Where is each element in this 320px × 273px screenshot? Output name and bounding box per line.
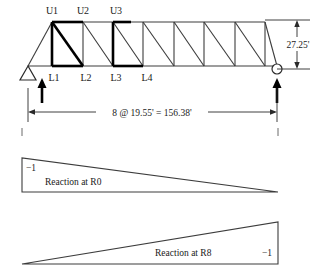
truss-diagonal-u6-l7 [204, 22, 235, 66]
node-label-l4: L4 [141, 72, 152, 83]
truss-end-diagonal-right [265, 22, 277, 66]
influence-line-r0: −1 Reaction at R0 [22, 128, 278, 192]
span-dimension-label: 8 @ 19.55' = 156.38' [112, 108, 192, 118]
influence-unit-label-r0: −1 [26, 163, 36, 173]
influence-unit-label-r8: −1 [262, 248, 272, 258]
truss-influence-line-figure: 27.25' 8 @ 19.55' = 156.38' U1 U2 U3 L1 … [0, 0, 320, 273]
figure-page: 27.25' 8 @ 19.55' = 156.38' U1 U2 U3 L1 … [0, 0, 320, 273]
influence-line-r8: Reaction at R8 −1 [22, 222, 278, 264]
node-label-u2: U2 [77, 5, 89, 16]
truss-diagram: 27.25' 8 @ 19.55' = 156.38' U1 U2 U3 L1 … [20, 5, 313, 122]
height-dimension-label: 27.25' [286, 40, 309, 50]
pin-support-icon [20, 66, 36, 80]
truss-diagonal-u7-l8 [235, 22, 265, 66]
node-label-l3: L3 [110, 72, 121, 83]
truss-end-diagonal-left [28, 22, 52, 66]
node-label-u3: U3 [110, 5, 122, 16]
node-label-u1: U1 [46, 5, 58, 16]
node-label-l2: L2 [80, 72, 91, 83]
truss-diagonal-u5-l6 [174, 22, 204, 66]
influence-line-shape-r8 [22, 222, 278, 264]
bold-member-u1-l2 [52, 22, 83, 66]
truss-diagonal-u2-l3 [83, 22, 113, 66]
influence-title-r0: Reaction at R0 [45, 177, 102, 187]
truss-diagonal-u3-l4 [113, 22, 143, 66]
node-label-l1: L1 [48, 72, 59, 83]
truss-diagonal-u4-l5 [143, 22, 174, 66]
influence-title-r8: Reaction at R8 [155, 248, 212, 258]
reaction-arrow-left [38, 78, 47, 103]
